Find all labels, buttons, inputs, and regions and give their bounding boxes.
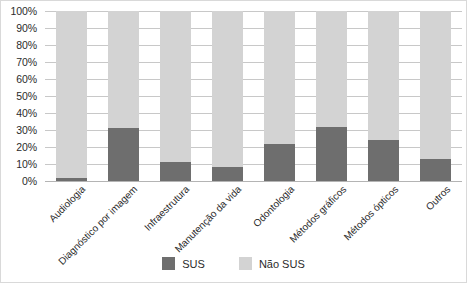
plot-area <box>45 11 462 181</box>
x-axis-tick-label: Outros <box>425 185 454 214</box>
bar-segment-sus <box>212 167 243 181</box>
bar-stack <box>368 11 399 181</box>
y-axis-tick-label: 40% <box>16 107 37 119</box>
x-axis-tick-label-text: Métodos ópticos <box>341 184 400 243</box>
bar-segment-nao-sus <box>212 11 243 167</box>
x-axis-tick-label-text: Outros <box>424 184 453 213</box>
chart-legend: SUSNão SUS <box>1 257 466 270</box>
legend-swatch-icon <box>239 257 252 270</box>
y-axis-tick-label: 50% <box>16 90 37 102</box>
x-axis-tick-label-text: Odontologia <box>250 184 296 230</box>
bar-stack <box>420 11 451 181</box>
x-axis-tick-label-text: Audiologia <box>47 184 87 224</box>
y-axis-tick-label: 80% <box>16 39 37 51</box>
x-axis-tick-label-text: Infraestrutura <box>142 184 191 233</box>
x-axis-tick-label: Odontologia <box>252 185 298 231</box>
bar-segment-sus <box>316 127 347 181</box>
bar-segment-sus <box>368 140 399 181</box>
bar-segment-nao-sus <box>56 11 87 178</box>
legend-label: Não SUS <box>259 258 305 270</box>
legend-item[interactable]: Não SUS <box>239 257 305 270</box>
bar-segment-sus <box>108 128 139 181</box>
y-axis-tick-label: 90% <box>16 22 37 34</box>
bar-segment-sus <box>56 178 87 181</box>
bar-segment-sus <box>264 144 295 181</box>
y-axis-tick-label: 70% <box>16 56 37 68</box>
x-axis-tick-label: Métodos ópticos <box>343 185 402 244</box>
x-axis-tick-label: Métodos gráficos <box>288 185 349 246</box>
x-axis-tick-label: Audiologia <box>48 185 88 225</box>
bar-stack <box>160 11 191 181</box>
bar-segment-nao-sus <box>420 11 451 159</box>
bar-stack <box>56 11 87 181</box>
legend-item[interactable]: SUS <box>162 257 205 270</box>
y-axis-tick-label: 30% <box>16 124 37 136</box>
bar-stack <box>264 11 295 181</box>
legend-swatch-icon <box>162 257 175 270</box>
bar-stack <box>212 11 243 181</box>
y-axis-tick-label: 20% <box>16 141 37 153</box>
y-axis-tick-label: 10% <box>16 158 37 170</box>
bar-group <box>45 11 462 181</box>
bar-segment-nao-sus <box>316 11 347 127</box>
axis-baseline <box>45 181 462 182</box>
bar-segment-sus <box>420 159 451 181</box>
x-axis-tick-label: Infraestrutura <box>144 185 193 234</box>
y-axis-tick-label: 100% <box>11 5 37 17</box>
bar-stack <box>316 11 347 181</box>
bar-stack <box>108 11 139 181</box>
y-axis-tick-label: 60% <box>16 73 37 85</box>
bar-segment-nao-sus <box>108 11 139 128</box>
y-axis-tick-label: 0% <box>22 175 37 187</box>
bar-segment-nao-sus <box>264 11 295 144</box>
legend-label: SUS <box>182 258 205 270</box>
y-axis: 100%90%80%70%60%50%40%30%20%10%0% <box>1 1 41 191</box>
bar-segment-nao-sus <box>368 11 399 140</box>
bar-segment-sus <box>160 162 191 181</box>
bar-segment-nao-sus <box>160 11 191 162</box>
stacked-bar-chart: 100%90%80%70%60%50%40%30%20%10%0% Audiol… <box>0 0 467 283</box>
